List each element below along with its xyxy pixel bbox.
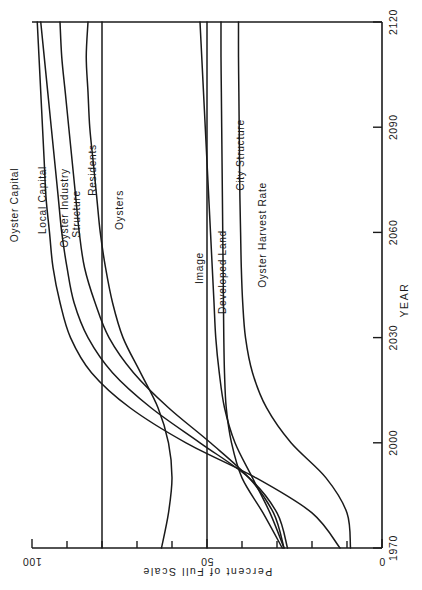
curve-label-oyster-harvest-rate: Oyster Harvest Rate <box>257 182 268 288</box>
series-line-oyster-capital <box>37 22 340 548</box>
percent-tick-label: 100 <box>22 556 41 568</box>
curve-label-city-structure: City Structure <box>235 119 246 191</box>
curve-label-residents: Residents <box>87 144 98 196</box>
chart-canvas: 050100 197020002030206020902120 Percent … <box>0 0 422 590</box>
year-tick-group <box>373 22 382 548</box>
year-tick-label: 2120 <box>387 9 399 35</box>
curve-label-developed-land: Developed Land <box>217 230 228 314</box>
curve-label-oyster-industry-structure-line2: Structure <box>71 190 82 238</box>
curve-label-local-capital: Local Capital <box>37 166 48 234</box>
percent-tick-label: 0 <box>379 556 385 568</box>
year-tick-label: 2090 <box>387 114 399 140</box>
curve-labels-group: Oyster CapitalLocal CapitalOyster Indust… <box>9 119 268 314</box>
year-tick-labels: 197020002030206020902120 <box>387 9 399 561</box>
year-tick-label: 2000 <box>387 430 399 456</box>
year-axis-title: YEAR <box>398 283 410 318</box>
year-tick-label: 2060 <box>387 220 399 246</box>
series-line-city-structure <box>221 22 282 548</box>
year-tick-label: 1970 <box>387 535 399 561</box>
series-line-oyster-harvest-rate <box>238 22 350 548</box>
curve-label-oyster-capital: Oyster Capital <box>9 168 20 242</box>
line-chart: 050100 197020002030206020902120 Percent … <box>0 0 422 590</box>
year-tick-label: 2030 <box>387 325 399 351</box>
curve-label-oyster-industry-structure-line1: Oyster Industry <box>59 168 70 248</box>
series-line-residents <box>86 22 172 548</box>
curve-label-image: Image <box>194 252 205 284</box>
series-line-local-capital <box>41 22 288 548</box>
curve-label-oysters: Oysters <box>114 190 125 230</box>
percent-axis-title: Percent of Full Scale <box>142 566 272 578</box>
series-curves-group <box>37 22 350 548</box>
